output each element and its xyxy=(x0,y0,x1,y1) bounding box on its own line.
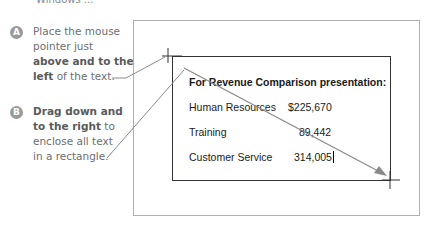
annotation-overlay xyxy=(0,0,436,229)
drag-arrow-icon xyxy=(184,68,387,176)
callout-line-a xyxy=(112,57,165,78)
callout-line-b xyxy=(107,70,184,158)
crosshair-icon xyxy=(162,48,182,63)
